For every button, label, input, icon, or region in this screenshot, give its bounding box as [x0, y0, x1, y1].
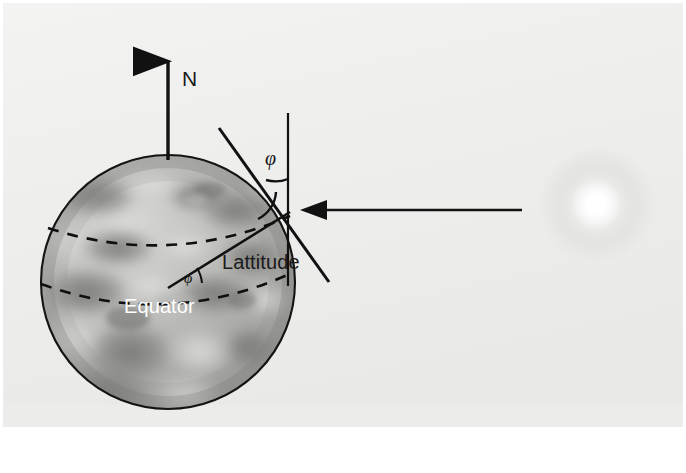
- label-angle-phi-center: φ: [184, 271, 192, 286]
- sun: [541, 149, 653, 261]
- diagram-canvas: [0, 0, 686, 473]
- label-north-axis: N: [182, 68, 197, 89]
- diagram-figure: N φ φ Lattitude Equator: [0, 0, 686, 473]
- label-latitude: Lattitude: [222, 252, 300, 272]
- label-angle-phi-top: φ: [265, 148, 276, 168]
- label-equator: Equator: [124, 296, 195, 316]
